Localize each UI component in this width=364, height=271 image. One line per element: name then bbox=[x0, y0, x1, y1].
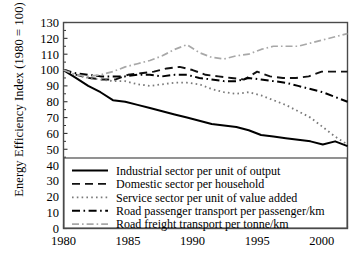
x-axis-tick-labels: 19801985199019952000 bbox=[51, 234, 334, 248]
legend-label-0: Industrial sector per unit of output bbox=[116, 164, 281, 178]
chart-figure: Energy Efficiency Index (1980 = 100) 010… bbox=[0, 0, 364, 271]
y-tick-label: 60 bbox=[47, 127, 60, 141]
x-tick-label: 1995 bbox=[245, 234, 270, 248]
x-tick-label: 1985 bbox=[116, 234, 141, 248]
legend-label-3: Road passenger transport per passenger/k… bbox=[116, 204, 325, 218]
y-tick-label: 10 bbox=[47, 206, 60, 220]
legend-label-2: Service sector per unit of value added bbox=[116, 191, 297, 205]
line-chart-plot: 0102030405060708090100110120130 19801985… bbox=[0, 0, 364, 271]
legend-label-4: Road freight transport per tonne/km bbox=[116, 217, 289, 231]
y-tick-label: 50 bbox=[47, 143, 60, 157]
series-line-0 bbox=[64, 70, 348, 146]
y-tick-label: 90 bbox=[47, 79, 60, 93]
y-tick-label: 70 bbox=[47, 111, 60, 125]
x-tick-label: 1990 bbox=[180, 234, 205, 248]
legend-label-1: Domestic sector per household bbox=[116, 177, 264, 191]
y-tick-label: 130 bbox=[40, 16, 59, 30]
y-tick-label: 100 bbox=[40, 63, 59, 77]
y-tick-label: 110 bbox=[41, 48, 59, 62]
y-tick-label: 30 bbox=[47, 174, 60, 188]
x-tick-label: 1980 bbox=[51, 234, 76, 248]
y-axis-tick-labels: 0102030405060708090100110120130 bbox=[40, 16, 59, 236]
y-tick-label: 20 bbox=[47, 190, 60, 204]
series-line-4 bbox=[64, 34, 348, 77]
series-line-2 bbox=[64, 70, 348, 144]
y-tick-label: 120 bbox=[40, 32, 59, 46]
y-tick-label: 40 bbox=[47, 159, 60, 173]
y-tick-label: 80 bbox=[47, 95, 60, 109]
x-tick-label: 2000 bbox=[309, 234, 334, 248]
data-series-group bbox=[64, 34, 348, 147]
